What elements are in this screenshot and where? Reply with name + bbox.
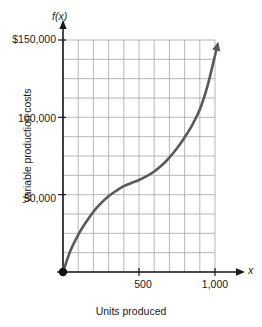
x-axis-title: Units produced <box>0 305 262 317</box>
y-tick-label-50000: 50,000 <box>0 192 56 204</box>
y-tick-label-150000: $150,000 <box>0 33 56 45</box>
x-tick-label-500: 500 <box>123 278 163 290</box>
y-tick-marks <box>58 40 66 195</box>
cost-curve <box>63 49 217 272</box>
x-variable-label: x <box>248 264 253 276</box>
function-label: f(x) <box>52 10 67 22</box>
grid-lines <box>63 40 215 272</box>
curve-arrowhead-icon <box>212 42 220 52</box>
origin-point-marker <box>59 268 67 276</box>
chart-figure: Variable production costs Units produced… <box>0 0 262 327</box>
y-axis-title: Variable production costs <box>21 51 33 241</box>
x-tick-label-1000: 1,000 <box>192 278 238 290</box>
y-tick-label-100000: 100,000 <box>0 112 56 124</box>
x-axis-arrow-icon <box>236 268 245 275</box>
